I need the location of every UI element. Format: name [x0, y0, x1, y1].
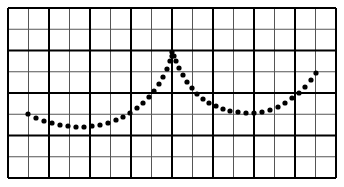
- curve-dot: [113, 117, 118, 122]
- curve-dot: [127, 110, 132, 115]
- curve-dot: [160, 74, 165, 79]
- curve-dot: [282, 100, 287, 105]
- curve-dot: [296, 90, 301, 95]
- curve-dot: [140, 100, 145, 105]
- curve-dot: [134, 105, 139, 110]
- curve-dot: [180, 72, 185, 77]
- grid-major-lines: [8, 8, 336, 178]
- curve-dot: [49, 120, 54, 125]
- curve-dot: [275, 104, 280, 109]
- curve-dot: [206, 100, 211, 105]
- curve-dot: [25, 111, 30, 116]
- curve-dot: [267, 107, 272, 112]
- curve-dot: [184, 79, 189, 84]
- curve-dot: [176, 65, 181, 70]
- curve-dot: [120, 114, 125, 119]
- curve-dot: [164, 66, 169, 71]
- curve-dot: [169, 49, 174, 54]
- curve-dot: [33, 115, 38, 120]
- curve-dot: [105, 120, 110, 125]
- curve-dot: [213, 103, 218, 108]
- curve-dot: [313, 70, 318, 75]
- curve-dot: [167, 58, 172, 63]
- curve-dot: [65, 123, 70, 128]
- curve-dot: [41, 118, 46, 123]
- curve-dot: [243, 110, 248, 115]
- curve-dot: [200, 96, 205, 101]
- curve-dot: [289, 95, 294, 100]
- curve-dot: [251, 110, 256, 115]
- curve-dot: [73, 124, 78, 129]
- curve-dot: [189, 85, 194, 90]
- curve-dot: [89, 123, 94, 128]
- curve-dot: [302, 84, 307, 89]
- curve-dot: [81, 124, 86, 129]
- curve-dot: [194, 91, 199, 96]
- curve-dot: [156, 81, 161, 86]
- curve-dot: [220, 106, 225, 111]
- curve-dot: [227, 108, 232, 113]
- curve-dot: [146, 94, 151, 99]
- curve-dot: [259, 109, 264, 114]
- curve-dot: [57, 122, 62, 127]
- curve-dot: [151, 88, 156, 93]
- curve-dot: [173, 58, 178, 63]
- dotted-curve-grid-diagram: [0, 0, 344, 187]
- curve-dot: [235, 109, 240, 114]
- curve-dot: [97, 122, 102, 127]
- curve-dot: [308, 77, 313, 82]
